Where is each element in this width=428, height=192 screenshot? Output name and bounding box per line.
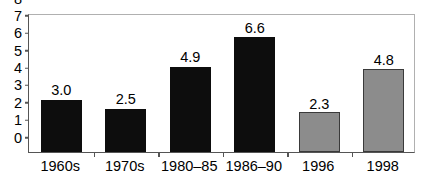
y-axis-tick: 5 (14, 43, 29, 58)
y-axis-tick: 0 (14, 130, 29, 145)
x-axis-category-label: 1960s (40, 159, 80, 174)
bar-value-label: 4.9 (180, 50, 200, 65)
bar-value-label: 2.5 (116, 92, 136, 107)
bar: 4.9 (170, 67, 211, 152)
bar: 3.0 (41, 100, 82, 152)
y-axis-tick: 4 (14, 61, 29, 76)
y-axis-tick: 7 (14, 9, 29, 24)
y-axis-tick: 6 (14, 26, 29, 41)
x-axis-tick-mark (287, 152, 289, 157)
y-axis-tick-mark (25, 137, 29, 139)
y-axis-tick-mark (25, 67, 29, 69)
bar: 4.8 (363, 69, 404, 152)
y-axis-tick: 3 (14, 78, 29, 93)
y-axis-tick-mark (25, 33, 29, 35)
x-axis-category-label: 1970s (105, 159, 145, 174)
y-axis-tick-label: 2 (14, 96, 25, 111)
bar-value-label: 6.6 (245, 21, 265, 36)
plot-area: 0123456783.02.54.96.62.34.8 (28, 14, 415, 153)
x-axis-tick-mark (223, 152, 225, 157)
x-axis-tick-mark (352, 152, 354, 157)
y-axis-tick: 2 (14, 96, 29, 111)
x-axis-category-label: 1998 (367, 159, 399, 174)
y-axis-tick-mark (25, 15, 29, 17)
bar: 6.6 (234, 37, 275, 152)
x-axis-category-label: 1980–85 (161, 159, 217, 174)
y-axis-tick-label: 6 (14, 26, 25, 41)
y-axis-tick-label: 7 (14, 9, 25, 24)
x-axis-tick-mark (158, 152, 160, 157)
y-axis-tick-mark (25, 102, 29, 104)
y-axis-tick: 8 (14, 0, 29, 6)
y-axis-tick-label: 4 (14, 61, 25, 76)
x-axis-category-label: 1996 (302, 159, 334, 174)
y-axis-tick-label: 1 (14, 113, 25, 128)
bar-value-label: 3.0 (51, 83, 71, 98)
y-axis-tick-label: 3 (14, 78, 25, 93)
bar-chart: 0123456783.02.54.96.62.34.8 1960s1970s19… (0, 0, 428, 192)
bar: 2.3 (299, 112, 340, 152)
y-axis-tick-label: 0 (14, 130, 25, 145)
x-axis-category-label: 1986–90 (226, 159, 282, 174)
x-axis-tick-mark (94, 152, 96, 157)
y-axis-tick: 1 (14, 113, 29, 128)
y-axis-tick-label: 8 (14, 0, 25, 6)
y-axis-tick-mark (25, 50, 29, 52)
y-axis-tick-mark (25, 119, 29, 121)
bar: 2.5 (105, 109, 146, 152)
bar-value-label: 4.8 (374, 53, 394, 68)
bar-value-label: 2.3 (309, 97, 329, 112)
y-axis-tick-mark (25, 85, 29, 87)
y-axis-tick-label: 5 (14, 43, 25, 58)
